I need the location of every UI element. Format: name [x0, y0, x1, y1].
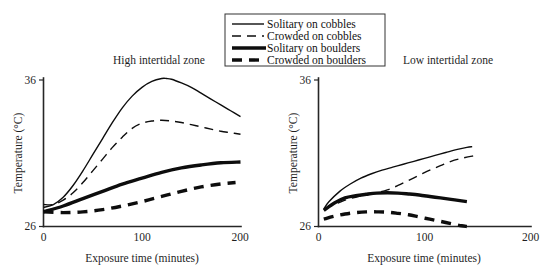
x-tick-label-high-200: 200: [231, 231, 249, 243]
panel-title-high: High intertidal zone: [113, 54, 205, 67]
legend-label-crowded-boulders: Crowded on boulders: [267, 54, 367, 66]
x-tick-label-low-100: 100: [416, 231, 434, 243]
y-tick-label-low-26: 26: [300, 220, 312, 232]
y-tick-label-high-36: 36: [25, 74, 37, 86]
series-low-solitary-boulders: [324, 193, 467, 211]
legend: Solitary on cobbles Crowded on cobbles S…: [225, 14, 385, 66]
plot-area-high: [44, 78, 241, 212]
panel-low-intertidal: Low intertidal zone 36 26 0 100 200 Expo…: [287, 54, 539, 265]
panel-high-intertidal: High intertidal zone 36 26 0 100 200 Exp…: [12, 54, 249, 265]
x-axis-title-high: Exposure time (minutes): [85, 252, 199, 265]
x-tick-label-low-200: 200: [522, 231, 540, 243]
y-tick-label-high-26: 26: [25, 220, 37, 232]
legend-label-crowded-cobbles: Crowded on cobbles: [267, 30, 362, 42]
figure-container: Solitary on cobbles Crowded on cobbles S…: [0, 0, 554, 273]
x-axis-title-low: Exposure time (minutes): [367, 252, 481, 265]
two-panel-line-chart: Solitary on cobbles Crowded on cobbles S…: [0, 0, 554, 273]
y-axis-title-low: Temperature (°C): [287, 112, 300, 193]
plot-area-low: [324, 147, 478, 227]
x-tick-label-high-100: 100: [133, 231, 151, 243]
panel-title-low: Low intertidal zone: [403, 54, 493, 66]
series-low-crowded-boulders: [324, 212, 467, 227]
y-axis-title-high: Temperature (°C): [12, 112, 25, 193]
series-high-solitary-cobbles: [44, 78, 241, 207]
x-tick-label-low-0: 0: [316, 231, 322, 243]
x-tick-label-high-0: 0: [41, 231, 47, 243]
y-tick-label-low-36: 36: [300, 74, 312, 86]
